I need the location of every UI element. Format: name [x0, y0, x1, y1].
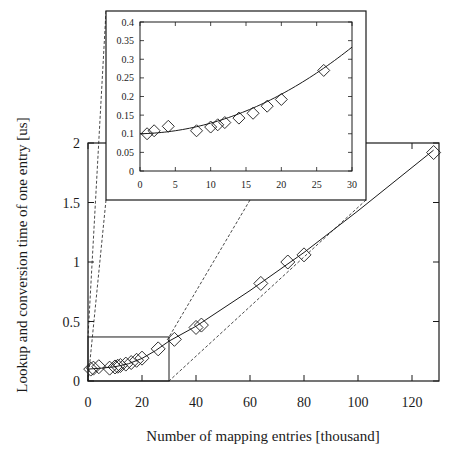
inset-y-tick-label: 0 — [129, 166, 134, 177]
inset-x-tick-label: 25 — [312, 179, 322, 190]
inset-x-tick-label: 5 — [173, 179, 178, 190]
y-tick-label: 0 — [73, 374, 80, 389]
inset-y-tick-label: 0.3 — [122, 54, 135, 65]
x-tick-label: 40 — [189, 395, 203, 410]
x-tick-label: 0 — [85, 395, 92, 410]
inset-plot: 05101520253000.050.10.150.20.250.30.350.… — [106, 11, 366, 200]
inset-frame — [106, 11, 366, 200]
x-axis-label: Number of mapping entries [thousand] — [146, 428, 379, 444]
connector-line — [88, 11, 106, 337]
inset-y-tick-label: 0.35 — [117, 35, 135, 46]
inset-x-tick-label: 30 — [347, 179, 357, 190]
x-tick-label: 120 — [402, 395, 423, 410]
inset-y-tick-label: 0.1 — [122, 128, 135, 139]
connector-line — [88, 200, 106, 381]
inset-x-tick-label: 15 — [241, 179, 251, 190]
y-tick-label: 1 — [73, 255, 80, 270]
x-tick-label: 100 — [348, 395, 369, 410]
inset-y-tick-label: 0.4 — [122, 17, 135, 28]
inset-y-tick-label: 0.25 — [117, 72, 135, 83]
x-tick-label: 80 — [297, 395, 311, 410]
chart: 02040608010012000.511.52 05101520253000.… — [0, 0, 457, 458]
y-axis-label: Lookup and conversion time of one entry … — [14, 117, 30, 392]
inset-x-tick-label: 0 — [138, 179, 143, 190]
inset-y-tick-label: 0.2 — [122, 91, 135, 102]
inset-x-tick-label: 10 — [206, 179, 216, 190]
data-point-marker — [297, 248, 311, 262]
inset-y-tick-label: 0.05 — [117, 147, 135, 158]
data-point-marker — [254, 276, 268, 290]
y-tick-label: 0.5 — [63, 315, 81, 330]
inset-y-tick-label: 0.15 — [117, 110, 135, 121]
y-tick-label: 2 — [73, 136, 80, 151]
data-point-marker — [151, 342, 165, 356]
x-tick-label: 20 — [135, 395, 149, 410]
connector-line — [169, 200, 250, 337]
x-tick-label: 60 — [243, 395, 257, 410]
y-tick-label: 1.5 — [63, 196, 81, 211]
inset-x-tick-label: 20 — [276, 179, 286, 190]
